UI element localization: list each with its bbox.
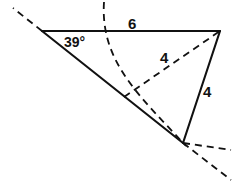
right-edge-solid bbox=[183, 31, 220, 143]
side-label-diagonal: 4 bbox=[160, 50, 168, 65]
side-label-top: 6 bbox=[128, 16, 136, 31]
compass-arc-dashed bbox=[104, 2, 186, 146]
angle-label-a: 39° bbox=[64, 35, 85, 49]
side-label-right: 4 bbox=[203, 84, 211, 99]
ray-extension-upper-left-dashed bbox=[13, 8, 42, 31]
ray-extension-right-dashed bbox=[183, 143, 231, 150]
figure-canvas bbox=[0, 0, 232, 191]
geometry-figure: 39° 6 4 4 bbox=[0, 0, 232, 191]
